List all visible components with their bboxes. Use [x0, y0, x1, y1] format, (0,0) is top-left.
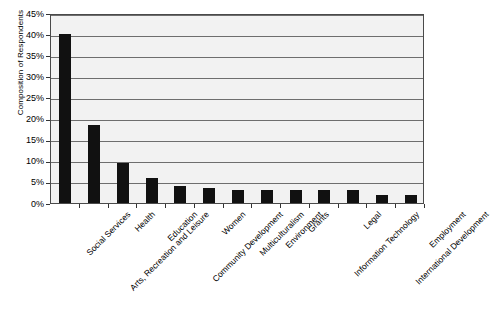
- bar: [232, 190, 244, 203]
- bar: [117, 163, 129, 203]
- bar: [290, 190, 302, 203]
- y-tick-label: 20%: [0, 115, 44, 124]
- x-tick-mark: [108, 204, 109, 208]
- x-tick-mark: [366, 204, 367, 208]
- bar: [146, 178, 158, 203]
- gridline: [51, 57, 423, 58]
- bar: [261, 190, 273, 203]
- x-tick-mark: [424, 204, 425, 208]
- x-tick-label: Legal: [362, 210, 383, 231]
- plot-area: [50, 14, 424, 204]
- y-tick-label: 35%: [0, 52, 44, 61]
- x-tick-label: Health: [133, 210, 157, 234]
- x-tick-mark: [165, 204, 166, 208]
- x-tick-label: Social Services: [85, 210, 132, 257]
- bar: [405, 195, 417, 203]
- bar: [88, 125, 100, 203]
- y-tick-mark: [46, 204, 50, 205]
- x-tick-mark: [194, 204, 195, 208]
- y-tick-label: 5%: [0, 178, 44, 187]
- y-tick-label: 10%: [0, 157, 44, 166]
- gridline: [51, 99, 423, 100]
- y-tick-label: 0%: [0, 200, 44, 209]
- gridline: [51, 15, 423, 16]
- bar: [318, 190, 330, 203]
- gridline: [51, 78, 423, 79]
- bar: [347, 190, 359, 203]
- y-tick-label: 25%: [0, 94, 44, 103]
- x-tick-mark: [251, 204, 252, 208]
- bar: [376, 195, 388, 203]
- x-tick-mark: [395, 204, 396, 208]
- gridline: [51, 141, 423, 142]
- x-tick-mark: [338, 204, 339, 208]
- bar: [59, 34, 71, 203]
- y-tick-label: 40%: [0, 31, 44, 40]
- x-tick-mark: [309, 204, 310, 208]
- x-tick-mark: [280, 204, 281, 208]
- x-tick-mark: [79, 204, 80, 208]
- y-tick-label: 45%: [0, 10, 44, 19]
- bar: [174, 186, 186, 203]
- x-tick-label: Grants: [306, 210, 330, 234]
- y-tick-label: 30%: [0, 73, 44, 82]
- gridline: [51, 162, 423, 163]
- bar: [203, 188, 215, 203]
- x-tick-mark: [136, 204, 137, 208]
- gridline: [51, 183, 423, 184]
- x-tick-label: Women: [221, 210, 248, 237]
- y-tick-label: 15%: [0, 136, 44, 145]
- gridline: [51, 120, 423, 121]
- x-tick-mark: [223, 204, 224, 208]
- gridline: [51, 36, 423, 37]
